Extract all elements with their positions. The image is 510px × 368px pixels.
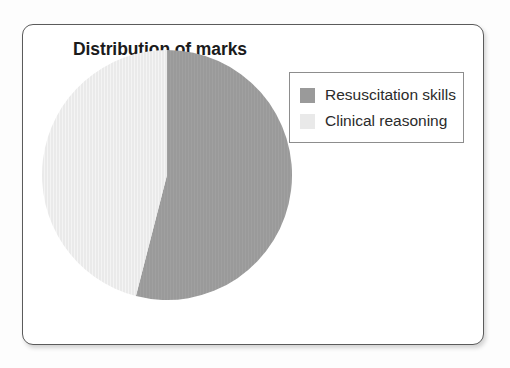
legend-item-resuscitation-skills[interactable]: Resuscitation skills — [300, 82, 463, 108]
legend-swatch-resuscitation-skills — [300, 88, 315, 103]
legend-item-clinical-reasoning[interactable]: Clinical reasoning — [300, 108, 463, 134]
pie-chart — [41, 49, 293, 301]
chart-card: Distribution of marks Resuscitation skil… — [22, 24, 484, 345]
chart-legend: Resuscitation skills Clinical reasoning — [289, 72, 464, 143]
pie-chart-svg — [41, 49, 293, 301]
legend-label-clinical-reasoning: Clinical reasoning — [325, 113, 447, 129]
legend-swatch-clinical-reasoning — [300, 114, 315, 129]
legend-label-resuscitation-skills: Resuscitation skills — [325, 87, 456, 103]
